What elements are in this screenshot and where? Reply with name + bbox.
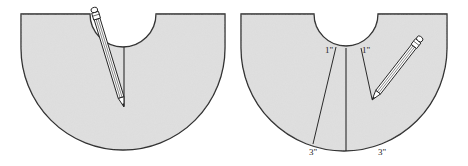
left-pattern: [21, 7, 225, 150]
label-right-top: 1": [362, 45, 371, 55]
label-left-top: 1": [325, 45, 334, 55]
right-pattern: 1" 1" 3" 3": [241, 14, 447, 157]
label-right-bottom: 3": [378, 147, 387, 157]
label-left-bottom: 3": [309, 147, 318, 157]
pattern-diagram: 1" 1" 3" 3": [0, 0, 468, 166]
